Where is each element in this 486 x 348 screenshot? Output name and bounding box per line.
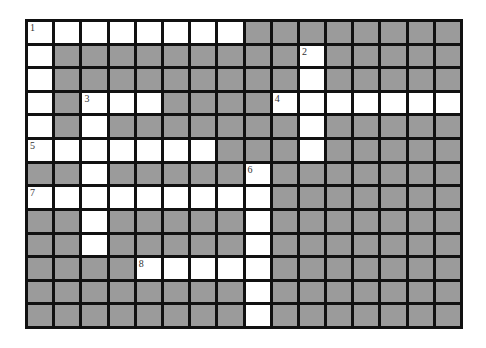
crossword-cell-open[interactable] [82, 116, 106, 137]
crossword-cell-open[interactable] [218, 187, 242, 208]
crossword-cell-block [436, 211, 460, 232]
clue-number: 6 [248, 164, 253, 175]
crossword-cell-block [327, 164, 351, 185]
crossword-cell-block [436, 140, 460, 161]
crossword-cell-open[interactable] [137, 187, 161, 208]
crossword-cell-open[interactable]: 3 [82, 93, 106, 114]
crossword-cell-open[interactable]: 2 [300, 46, 324, 67]
crossword-cell-block [246, 69, 270, 90]
crossword-cell-open[interactable] [82, 211, 106, 232]
crossword-cell-block [55, 46, 79, 67]
crossword-cell-open[interactable] [191, 187, 215, 208]
crossword-cell-block [164, 235, 188, 256]
crossword-cell-open[interactable] [246, 235, 270, 256]
crossword-cell-open[interactable] [82, 22, 106, 43]
crossword-cell-open[interactable] [246, 305, 270, 326]
crossword-cell-block [381, 211, 405, 232]
crossword-cell-open[interactable] [354, 93, 378, 114]
crossword-cell-open[interactable] [110, 140, 134, 161]
crossword-cell-block [273, 22, 297, 43]
crossword-cell-block [354, 69, 378, 90]
crossword-cell-open[interactable] [55, 140, 79, 161]
crossword-cell-open[interactable]: 7 [28, 187, 52, 208]
crossword-cell-open[interactable] [137, 22, 161, 43]
crossword-cell-open[interactable] [28, 116, 52, 137]
crossword-cell-open[interactable] [110, 187, 134, 208]
crossword-cell-block [409, 140, 433, 161]
crossword-cell-block [436, 69, 460, 90]
crossword-cell-open[interactable] [246, 187, 270, 208]
crossword-cell-block [381, 69, 405, 90]
crossword-cell-open[interactable] [300, 93, 324, 114]
clue-number: 2 [302, 46, 307, 57]
crossword-cell-open[interactable] [137, 140, 161, 161]
crossword-cell-open[interactable] [218, 258, 242, 279]
crossword-cell-block [218, 282, 242, 303]
clue-number: 3 [84, 93, 89, 104]
crossword-cell-block [436, 282, 460, 303]
crossword-cell-open[interactable] [55, 187, 79, 208]
crossword-cell-block [55, 235, 79, 256]
crossword-cell-block [137, 305, 161, 326]
crossword-cell-open[interactable] [191, 22, 215, 43]
crossword-cell-open[interactable] [164, 187, 188, 208]
crossword-cell-block [436, 305, 460, 326]
crossword-cell-block [55, 164, 79, 185]
crossword-cell-open[interactable]: 4 [273, 93, 297, 114]
crossword-cell-block [28, 235, 52, 256]
crossword-cell-open[interactable] [191, 258, 215, 279]
crossword-cell-block [110, 235, 134, 256]
crossword-cell-open[interactable] [246, 282, 270, 303]
crossword-cell-open[interactable] [300, 140, 324, 161]
crossword-cell-open[interactable] [28, 69, 52, 90]
crossword-cell-open[interactable] [82, 235, 106, 256]
crossword-cell-open[interactable] [436, 93, 460, 114]
crossword-cell-open[interactable] [164, 258, 188, 279]
crossword-cell-open[interactable] [246, 211, 270, 232]
crossword-cell-block [300, 282, 324, 303]
crossword-cell-open[interactable] [300, 69, 324, 90]
crossword-cell-open[interactable]: 8 [137, 258, 161, 279]
crossword-cell-open[interactable] [191, 140, 215, 161]
crossword-cell-block [28, 164, 52, 185]
crossword-cell-block [327, 116, 351, 137]
crossword-cell-open[interactable] [137, 93, 161, 114]
crossword-cell-block [218, 93, 242, 114]
crossword-cell-open[interactable] [300, 116, 324, 137]
crossword-cell-open[interactable] [110, 22, 134, 43]
crossword-cell-block [218, 140, 242, 161]
crossword-cell-block [218, 69, 242, 90]
crossword-cell-block [381, 187, 405, 208]
crossword-cell-open[interactable] [55, 22, 79, 43]
crossword-cell-open[interactable] [82, 140, 106, 161]
crossword-cell-block [327, 258, 351, 279]
crossword-cell-block [28, 305, 52, 326]
crossword-cell-open[interactable] [381, 93, 405, 114]
crossword-cell-block [436, 22, 460, 43]
crossword-cell-block [55, 69, 79, 90]
crossword-cell-open[interactable]: 1 [28, 22, 52, 43]
crossword-cell-open[interactable] [409, 93, 433, 114]
crossword-cell-block [300, 22, 324, 43]
crossword-cell-block [137, 116, 161, 137]
crossword-cell-block [28, 282, 52, 303]
crossword-cell-open[interactable] [246, 258, 270, 279]
crossword-cell-open[interactable] [82, 164, 106, 185]
crossword-cell-block [164, 211, 188, 232]
crossword-cell-block [409, 187, 433, 208]
crossword-cell-open[interactable] [28, 93, 52, 114]
crossword-cell-open[interactable] [327, 93, 351, 114]
crossword-cell-open[interactable] [110, 93, 134, 114]
crossword-cell-open[interactable] [218, 22, 242, 43]
crossword-cell-open[interactable]: 5 [28, 140, 52, 161]
crossword-cell-block [300, 258, 324, 279]
crossword-cell-block [82, 305, 106, 326]
crossword-cell-open[interactable] [164, 22, 188, 43]
crossword-cell-open[interactable] [164, 140, 188, 161]
crossword-cell-open[interactable]: 6 [246, 164, 270, 185]
crossword-cell-block [273, 282, 297, 303]
crossword-cell-block [137, 211, 161, 232]
crossword-cell-open[interactable] [82, 187, 106, 208]
crossword-cell-block [55, 116, 79, 137]
crossword-cell-open[interactable] [28, 46, 52, 67]
